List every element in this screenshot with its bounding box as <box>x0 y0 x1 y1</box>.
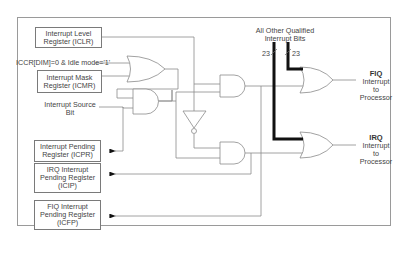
register-iclr-label: Interrupt Level Register (ICLR) <box>36 30 101 46</box>
bus-width-left: 23 <box>262 50 270 58</box>
wire-to-icpr <box>115 107 123 151</box>
wire-source <box>99 107 133 108</box>
irq-output-label: IRQ Interrupt to Processor <box>357 134 395 166</box>
register-icmr: Interrupt Mask Register (ICMR) <box>37 70 102 93</box>
wire-inverter-out <box>194 134 220 148</box>
and-gate-irq <box>220 142 245 164</box>
or-gate-irq <box>300 132 333 158</box>
register-icpr-label: Interrupt Pending Register (ICPR) <box>35 143 100 159</box>
register-iclr: Interrupt Level Register (ICLR) <box>35 27 102 48</box>
interrupt-source-label: Interrupt Source Bit <box>42 101 98 117</box>
register-icmr-label: Interrupt Mask Register (ICMR) <box>38 74 101 90</box>
wire-and1-to-andbottom <box>176 101 220 158</box>
wire-and1-to-andtop <box>158 92 220 101</box>
and-gate-source <box>133 89 158 114</box>
register-icip-label: IRQ Interrupt Pending Register (ICIP) <box>35 166 100 190</box>
register-icfp: FIQ Interrupt Pending Register (ICFP) <box>34 200 101 230</box>
irq-line3: Processor <box>357 158 395 166</box>
inverter-bubble <box>192 129 197 134</box>
register-icip: IRQ Interrupt Pending Register (ICIP) <box>34 163 101 193</box>
or-gate-fiq <box>300 67 333 93</box>
bus-width-right: 23 <box>292 50 300 58</box>
or-gate-1 <box>127 56 165 82</box>
iccr-condition-label: ICCR[DIM]=0 & Idle mode='1' <box>16 59 110 67</box>
wire-and1-out <box>158 90 172 101</box>
fiq-output-label: FIQ Interrupt to Processor <box>357 70 395 102</box>
and-gate-fiq <box>220 75 245 97</box>
inverter-gate <box>183 111 206 128</box>
register-icfp-label: FIQ Interrupt Pending Register (ICFP) <box>35 203 100 227</box>
fiq-line3: Processor <box>357 94 395 102</box>
other-bits-label-2: Interrupt Bits <box>245 35 325 43</box>
register-icpr: Interrupt Pending Register (ICPR) <box>34 140 101 162</box>
wire-iclr <box>101 37 220 84</box>
